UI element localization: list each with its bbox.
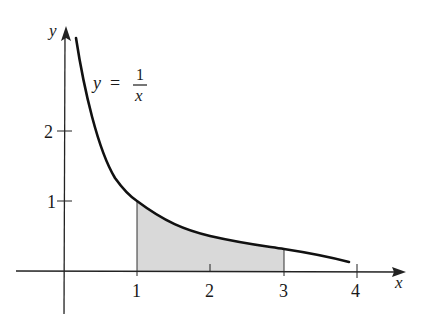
y-tick-label-1: 1 xyxy=(47,192,56,212)
function-label-denominator: x xyxy=(134,86,143,105)
x-tick-label-1: 1 xyxy=(132,281,141,301)
function-label-equals: = xyxy=(110,73,120,93)
y-axis-label: y xyxy=(47,21,57,40)
function-label-lhs: y xyxy=(91,73,101,93)
x-tick-label-2: 2 xyxy=(205,281,214,301)
curve-reciprocal xyxy=(76,38,349,262)
x-axis xyxy=(16,271,398,272)
function-label-numerator: 1 xyxy=(136,66,144,83)
y-tick-label-2: 2 xyxy=(44,122,53,142)
x-tick-label-4: 4 xyxy=(351,281,360,301)
function-label: y = 1 x xyxy=(91,66,147,105)
x-axis-label: x xyxy=(394,273,403,292)
y-axis-arrow-icon xyxy=(61,26,71,41)
diagram-canvas: y x 2 1 1 2 3 4 y = 1 x xyxy=(0,0,421,330)
y-axis xyxy=(64,36,65,314)
x-tick-label-3: 3 xyxy=(279,281,288,301)
